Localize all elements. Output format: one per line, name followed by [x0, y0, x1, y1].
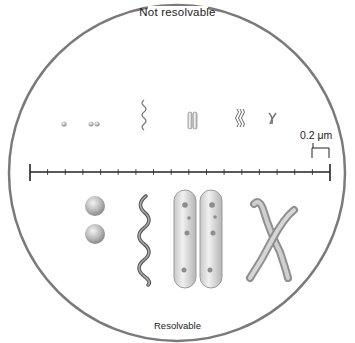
scale-bracket	[312, 143, 329, 158]
diplococcus-icon	[89, 122, 100, 127]
spirillum-icon	[142, 100, 146, 130]
bacillus-pair-icon	[188, 112, 197, 129]
resolvable-label: Resolvable	[0, 320, 355, 331]
spirochete-cluster-icon	[236, 109, 245, 127]
not-resolvable-label: Not resolvable	[0, 6, 355, 18]
large-diplococcus-icon	[85, 196, 105, 244]
large-bacillus-pair-icon	[174, 190, 222, 288]
small-structures	[61, 100, 276, 130]
scale-label: 0.2 μm	[300, 129, 332, 141]
single-coccus-icon	[61, 121, 66, 126]
large-chromosome-icon	[250, 202, 294, 278]
scale-bar	[30, 164, 330, 181]
large-structures	[85, 190, 294, 288]
diagram-canvas	[0, 0, 355, 343]
large-spirillum-icon	[139, 196, 149, 285]
small-chromosome-icon	[269, 113, 276, 124]
resolution-diagram: Not resolvable 0.2 μm Resolvable	[0, 0, 355, 343]
